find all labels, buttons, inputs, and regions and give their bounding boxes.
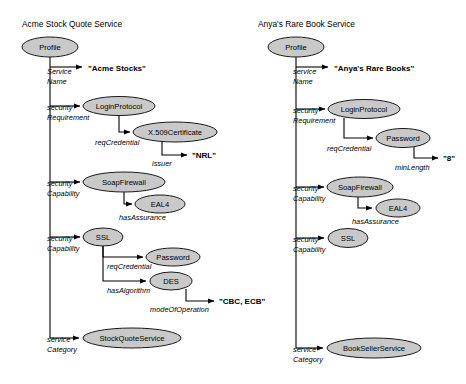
literal-acme-service-name: "Acme Stocks" — [88, 64, 146, 73]
edge-label-anya-service-category-2: Category — [293, 355, 324, 364]
edge-label-anya-req-credential: reqCredential — [327, 144, 372, 153]
node-label: Profile — [285, 43, 307, 52]
literal-acme-mode-of-operation: "CBC, ECB" — [219, 297, 265, 306]
edge-label-acme-service-category-2: Category — [47, 345, 78, 354]
edge-label-anya-security-requirement-1: security — [293, 106, 320, 115]
node-acme-soapfirewall[interactable]: SoapFirewall — [83, 172, 165, 192]
node-label: StockQuoteService — [100, 334, 165, 343]
node-label: X.509Certificate — [148, 128, 202, 137]
graph-title-acme: Acme Stock Quote Service — [22, 19, 122, 29]
edge-label-anya-security-capability-2a: security — [293, 235, 320, 244]
literal-anya-service-name: "Anya's Rare Books" — [334, 64, 414, 73]
anya-edge-req-credential — [344, 118, 373, 138]
node-label: EAL4 — [151, 200, 170, 209]
node-label: BookSellerService — [343, 344, 405, 353]
edge-label-anya-has-assurance: hasAssurance — [352, 217, 399, 226]
edge-label-anya-security-capability-2b: Capability — [293, 245, 327, 254]
edge-label-acme-service-category-1: service — [47, 335, 70, 344]
node-acme-x509certificate[interactable]: X.509Certificate — [133, 122, 217, 142]
edge-label-anya-security-capability-1b: Capability — [293, 194, 327, 203]
node-label: SSL — [96, 233, 110, 242]
edge-label-acme-security-capability-2b: Capability — [47, 244, 81, 253]
node-acme-password[interactable]: Password — [146, 248, 200, 266]
edge-label-anya-service-name-2: Name — [293, 77, 313, 86]
graph-anya: Anya's Rare Book Service Profile — [258, 19, 455, 364]
acme-edge-issuer — [162, 142, 187, 155]
edge-label-acme-req-credential-1: reqCredential — [95, 138, 140, 147]
acme-edge-has-assurance — [124, 192, 132, 204]
edge-label-anya-min-length: minLength — [395, 163, 430, 172]
edge-label-acme-security-capability-1a: security — [47, 179, 74, 188]
literal-acme-issuer: "NRL" — [192, 151, 216, 160]
edge-label-acme-security-capability-2a: security — [47, 234, 74, 243]
graph-title-anya: Anya's Rare Book Service — [258, 19, 355, 29]
node-acme-des[interactable]: DES — [150, 272, 192, 290]
node-label: Password — [386, 134, 419, 143]
anya-edge-min-length — [414, 147, 438, 158]
node-anya-eal4[interactable]: EAL4 — [376, 199, 420, 217]
diagram-root: Acme Stock Quote Service — [0, 0, 466, 384]
node-label: EAL4 — [389, 204, 408, 213]
edge-label-anya-service-category-1: service — [293, 345, 316, 354]
edge-label-anya-security-requirement-2: Requirement — [293, 116, 336, 125]
node-anya-loginprotocol[interactable]: LoginProtocol — [328, 100, 400, 119]
acme-edge-req-credential-1 — [119, 116, 130, 132]
node-anya-profile[interactable]: Profile — [268, 37, 324, 57]
edge-label-acme-mode-of-operation: modeOfOperation — [150, 305, 209, 314]
node-anya-password[interactable]: Password — [376, 129, 430, 148]
node-acme-loginprotocol[interactable]: LoginProtocol — [83, 97, 155, 116]
node-acme-profile[interactable]: Profile — [22, 37, 78, 57]
edge-label-acme-service-name-1: Service — [47, 67, 72, 76]
edge-label-acme-has-algorithm: hasAlgorithm — [107, 286, 150, 295]
graph-acme: Acme Stock Quote Service — [22, 19, 265, 354]
edge-label-acme-has-assurance: hasAssurance — [119, 213, 166, 222]
edge-label-acme-req-credential-2: reqCredential — [107, 262, 152, 271]
node-label: LoginProtocol — [96, 102, 143, 111]
node-acme-stockquoteservice[interactable]: StockQuoteService — [83, 328, 181, 348]
literal-anya-min-length: "8" — [443, 154, 455, 163]
edge-label-acme-security-capability-1b: Capability — [47, 189, 81, 198]
acme-edge-req-credential-2 — [103, 246, 143, 257]
diagram-canvas: Acme Stock Quote Service — [0, 0, 466, 384]
node-anya-booksellerservice[interactable]: BookSellerService — [327, 338, 421, 358]
node-anya-soapfirewall[interactable]: SoapFirewall — [327, 177, 393, 197]
node-label: SoapFirewall — [102, 178, 146, 187]
node-anya-ssl[interactable]: SSL — [328, 229, 368, 248]
edge-label-acme-issuer: issuer — [152, 159, 172, 168]
node-label: LoginProtocol — [341, 105, 388, 114]
edge-label-anya-security-capability-1a: security — [293, 184, 320, 193]
edge-label-acme-security-requirement-1: security — [47, 103, 74, 112]
node-label: SSL — [341, 234, 355, 243]
acme-edge-mode-of-operation — [186, 289, 214, 301]
node-label: Profile — [39, 43, 61, 52]
node-label: SoapFirewall — [338, 183, 382, 192]
node-label: DES — [163, 277, 179, 286]
node-acme-eal4[interactable]: EAL4 — [135, 195, 185, 213]
edge-label-acme-service-name-2: Name — [47, 77, 67, 86]
node-label: Password — [156, 253, 189, 262]
anya-edge-has-assurance — [358, 197, 372, 208]
node-acme-ssl[interactable]: SSL — [83, 228, 123, 246]
edge-label-anya-service-name-1: service — [293, 67, 316, 76]
edge-label-acme-security-requirement-2: Requirement — [47, 113, 90, 122]
